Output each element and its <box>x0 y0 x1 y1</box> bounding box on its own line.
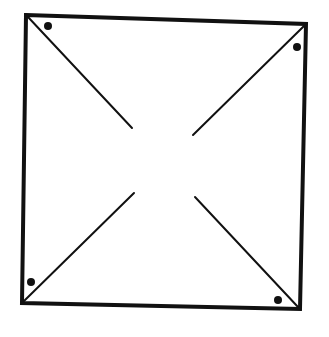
corner-dots <box>27 22 301 304</box>
dot-bottom-right <box>274 296 282 304</box>
dot-top-right <box>293 43 301 51</box>
square-outline <box>22 15 306 309</box>
diagonal-segments <box>24 17 304 307</box>
dot-top-left <box>44 22 52 30</box>
dot-bottom-left <box>27 278 35 286</box>
diagonal-bottom-right <box>195 197 298 307</box>
diagonal-bottom-left <box>24 193 134 301</box>
diagonal-top-right <box>193 26 304 135</box>
diagonal-top-left <box>28 17 132 128</box>
square-diagonal-diagram <box>0 0 329 337</box>
